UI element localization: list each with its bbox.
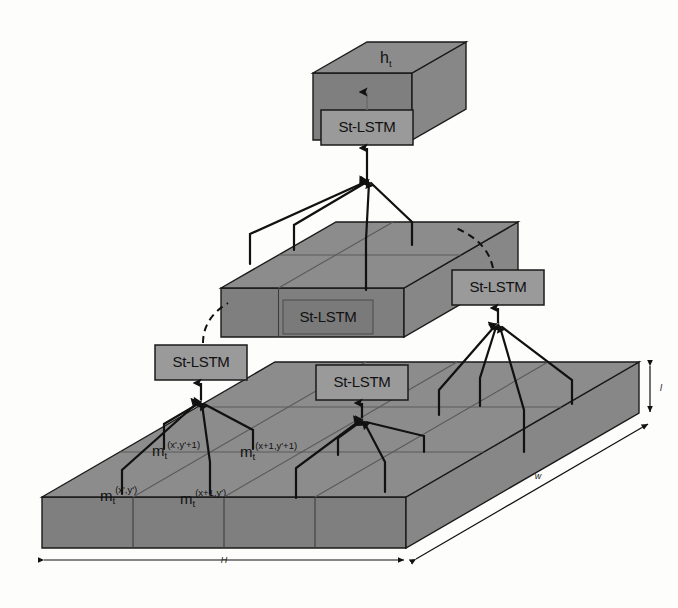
dim-label-l: l [660, 383, 663, 393]
st-lstm-unit-mid-right[interactable]: St-LSTM [452, 270, 544, 323]
st-lstm-label-mid-right: St-LSTM [469, 278, 526, 295]
st-lstm-architecture-diagram: St-LSTM ht St-LSTM St-LSTM [0, 0, 678, 608]
st-lstm-label-bottom-center: St-LSTM [333, 373, 390, 390]
st-lstm-label-mid-hidden: St-LSTM [299, 308, 356, 325]
st-lstm-unit-mid-hidden[interactable]: St-LSTM [283, 300, 373, 334]
diagram-canvas: St-LSTM ht St-LSTM St-LSTM [0, 0, 678, 608]
st-lstm-label-top: St-LSTM [338, 118, 395, 135]
dim-label-H: H [221, 555, 228, 565]
st-lstm-label-bottom-left: St-LSTM [172, 353, 229, 370]
dim-label-w: w [535, 471, 542, 481]
